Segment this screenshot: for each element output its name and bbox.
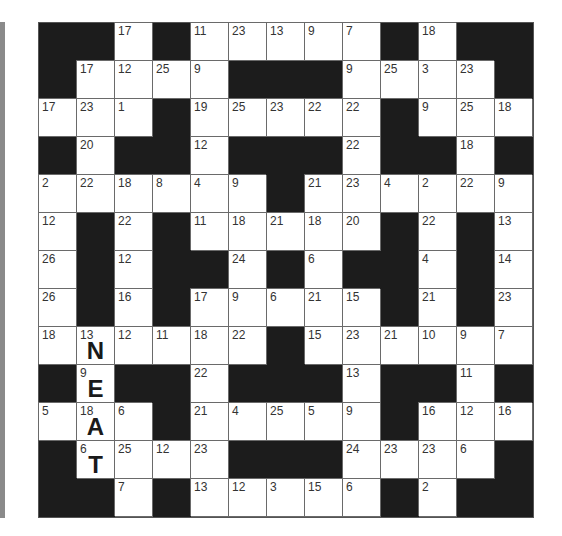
grid-cell[interactable]: 25: [153, 61, 191, 99]
grid-cell[interactable]: 12: [229, 479, 267, 517]
grid-cell[interactable]: 25: [457, 99, 495, 137]
grid-cell[interactable]: 13N: [77, 327, 115, 365]
grid-cell[interactable]: 3: [419, 61, 457, 99]
grid-cell[interactable]: 20: [343, 213, 381, 251]
grid-cell[interactable]: 9: [191, 61, 229, 99]
grid-cell[interactable]: 18: [419, 23, 457, 61]
grid-cell[interactable]: 17: [77, 61, 115, 99]
grid-cell[interactable]: 6T: [77, 441, 115, 479]
grid-cell[interactable]: 17: [115, 23, 153, 61]
grid-cell[interactable]: 25: [381, 61, 419, 99]
grid-cell[interactable]: 23: [77, 99, 115, 137]
grid-cell[interactable]: 6: [457, 441, 495, 479]
grid-cell[interactable]: 16: [419, 403, 457, 441]
grid-cell[interactable]: 13: [267, 23, 305, 61]
grid-cell[interactable]: 11: [191, 213, 229, 251]
grid-cell[interactable]: 12: [115, 251, 153, 289]
grid-cell[interactable]: 5: [305, 403, 343, 441]
grid-cell[interactable]: 9: [495, 175, 533, 213]
grid-cell[interactable]: 16: [495, 403, 533, 441]
grid-cell[interactable]: 22: [115, 213, 153, 251]
grid-cell[interactable]: 6: [267, 289, 305, 327]
grid-cell[interactable]: 23: [495, 289, 533, 327]
grid-cell[interactable]: 15: [343, 289, 381, 327]
grid-cell[interactable]: 18: [115, 175, 153, 213]
grid-cell[interactable]: 22: [343, 137, 381, 175]
grid-cell[interactable]: 4: [419, 251, 457, 289]
grid-cell[interactable]: 21: [305, 289, 343, 327]
grid-cell[interactable]: 24: [343, 441, 381, 479]
grid-cell[interactable]: 21: [191, 403, 229, 441]
grid-cell[interactable]: 7: [115, 479, 153, 517]
grid-cell[interactable]: 15: [305, 327, 343, 365]
grid-cell[interactable]: 3: [267, 479, 305, 517]
grid-cell[interactable]: 23: [191, 441, 229, 479]
grid-cell[interactable]: 11: [457, 365, 495, 403]
grid-cell[interactable]: 18: [457, 137, 495, 175]
grid-cell[interactable]: 23: [267, 99, 305, 137]
grid-cell[interactable]: 9E: [77, 365, 115, 403]
grid-cell[interactable]: 11: [153, 327, 191, 365]
grid-cell[interactable]: 26: [39, 251, 77, 289]
grid-cell[interactable]: 9: [229, 175, 267, 213]
grid-cell[interactable]: 9: [419, 99, 457, 137]
grid-cell[interactable]: 15: [305, 479, 343, 517]
grid-cell[interactable]: 23: [229, 23, 267, 61]
grid-cell[interactable]: 22: [191, 365, 229, 403]
grid-cell[interactable]: 23: [457, 61, 495, 99]
grid-cell[interactable]: 18: [229, 213, 267, 251]
grid-cell[interactable]: 12: [457, 403, 495, 441]
grid-cell[interactable]: 18: [495, 99, 533, 137]
grid-cell[interactable]: 18: [305, 213, 343, 251]
grid-cell[interactable]: 25: [267, 403, 305, 441]
grid-cell[interactable]: 22: [77, 175, 115, 213]
grid-cell[interactable]: 6: [115, 403, 153, 441]
grid-cell[interactable]: 4: [191, 175, 229, 213]
grid-cell[interactable]: 9: [343, 403, 381, 441]
grid-cell[interactable]: 6: [343, 479, 381, 517]
grid-cell[interactable]: 25: [115, 441, 153, 479]
grid-cell[interactable]: 9: [343, 61, 381, 99]
grid-cell[interactable]: 17: [191, 289, 229, 327]
grid-cell[interactable]: 11: [191, 23, 229, 61]
grid-cell[interactable]: 6: [305, 251, 343, 289]
grid-cell[interactable]: 18A: [77, 403, 115, 441]
grid-cell[interactable]: 13: [495, 213, 533, 251]
grid-cell[interactable]: 17: [39, 99, 77, 137]
grid-cell[interactable]: 23: [343, 175, 381, 213]
grid-cell[interactable]: 22: [343, 99, 381, 137]
grid-cell[interactable]: 21: [419, 289, 457, 327]
grid-cell[interactable]: 13: [343, 365, 381, 403]
grid-cell[interactable]: 23: [381, 441, 419, 479]
grid-cell[interactable]: 19: [191, 99, 229, 137]
grid-cell[interactable]: 25: [229, 99, 267, 137]
grid-cell[interactable]: 5: [39, 403, 77, 441]
grid-cell[interactable]: 4: [381, 175, 419, 213]
grid-cell[interactable]: 20: [77, 137, 115, 175]
grid-cell[interactable]: 2: [419, 175, 457, 213]
grid-cell[interactable]: 12: [115, 327, 153, 365]
grid-cell[interactable]: 21: [267, 213, 305, 251]
grid-cell[interactable]: 1: [115, 99, 153, 137]
grid-cell[interactable]: 21: [381, 327, 419, 365]
grid-cell[interactable]: 12: [153, 441, 191, 479]
grid-cell[interactable]: 8: [153, 175, 191, 213]
grid-cell[interactable]: 21: [305, 175, 343, 213]
grid-cell[interactable]: 26: [39, 289, 77, 327]
grid-cell[interactable]: 4: [229, 403, 267, 441]
grid-cell[interactable]: 2: [419, 479, 457, 517]
grid-cell[interactable]: 22: [229, 327, 267, 365]
grid-cell[interactable]: 12: [191, 137, 229, 175]
grid-cell[interactable]: 23: [419, 441, 457, 479]
grid-cell[interactable]: 14: [495, 251, 533, 289]
grid-cell[interactable]: 18: [39, 327, 77, 365]
grid-cell[interactable]: 23: [343, 327, 381, 365]
grid-cell[interactable]: 10: [419, 327, 457, 365]
grid-cell[interactable]: 2: [39, 175, 77, 213]
grid-cell[interactable]: 9: [229, 289, 267, 327]
grid-cell[interactable]: 13: [191, 479, 229, 517]
grid-cell[interactable]: 16: [115, 289, 153, 327]
grid-cell[interactable]: 22: [419, 213, 457, 251]
grid-cell[interactable]: 12: [39, 213, 77, 251]
grid-cell[interactable]: 9: [305, 23, 343, 61]
